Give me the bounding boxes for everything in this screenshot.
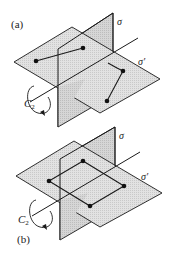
panel-a <box>14 13 160 127</box>
sigma-prime-plane-a <box>14 27 160 113</box>
sigma-prime-plane-b <box>16 141 162 227</box>
point-a-3 <box>121 69 126 74</box>
sigma-label-a: σ <box>117 17 122 27</box>
point-a-2 <box>81 46 86 51</box>
c2-label-a: C2 <box>24 98 35 111</box>
c2-label-b: C2 <box>18 214 29 227</box>
panel-label-a: (a) <box>11 19 23 30</box>
c2-label-a-sub: 2 <box>31 103 35 111</box>
point-b-2 <box>47 179 52 184</box>
point-a-4 <box>105 99 110 104</box>
point-b-3 <box>122 184 127 189</box>
sigma-prime-label-a: σ′ <box>138 57 145 67</box>
sigma-label-b: σ <box>119 131 124 141</box>
panel-label-b: (b) <box>17 234 30 245</box>
point-a-1 <box>34 59 39 64</box>
c2-label-b-sub: 2 <box>25 219 29 227</box>
point-b-4 <box>88 204 93 209</box>
point-b-1 <box>81 159 86 164</box>
rotation-arrow-icon-b <box>30 200 53 228</box>
panel-b <box>16 127 162 240</box>
sigma-prime-label-b: σ′ <box>141 172 148 182</box>
